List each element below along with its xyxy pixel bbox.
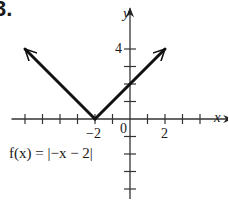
function-graph <box>25 49 165 119</box>
graph-canvas <box>0 0 228 200</box>
x-axis-label: x <box>214 110 221 125</box>
function-label: f(x) = |−x − 2| <box>9 146 93 161</box>
x-tick-label-neg2: −2 <box>86 127 101 141</box>
y-tick-label-4: 4 <box>115 42 122 56</box>
axes <box>12 8 229 199</box>
x-tick-label-2: 2 <box>161 127 168 141</box>
origin-label: 0 <box>120 122 127 136</box>
graph-left-branch <box>25 49 95 119</box>
y-axis-label: y <box>123 6 130 21</box>
